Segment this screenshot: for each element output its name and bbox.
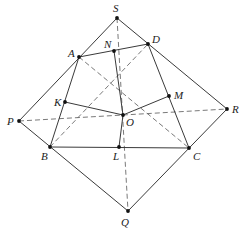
segment-lo bbox=[119, 115, 123, 147]
segment-sp bbox=[19, 18, 117, 121]
label-b: B bbox=[41, 150, 48, 162]
points bbox=[17, 16, 229, 213]
segment-sr bbox=[117, 18, 227, 109]
segment-ko bbox=[65, 102, 123, 115]
point-m bbox=[167, 94, 171, 98]
point-r bbox=[225, 107, 229, 111]
label-s: S bbox=[113, 2, 119, 14]
point-c bbox=[187, 146, 191, 150]
label-m: M bbox=[173, 89, 184, 101]
label-n: N bbox=[103, 38, 112, 50]
point-d bbox=[146, 42, 150, 46]
point-p bbox=[17, 119, 21, 123]
segment-bd bbox=[50, 44, 148, 147]
label-p: P bbox=[6, 115, 14, 127]
label-c: C bbox=[193, 150, 201, 162]
point-a bbox=[77, 55, 81, 59]
label-o: O bbox=[126, 116, 134, 128]
label-d: D bbox=[151, 33, 160, 45]
segment-ac bbox=[79, 57, 189, 148]
point-n bbox=[112, 49, 116, 53]
label-l: L bbox=[112, 150, 119, 162]
label-k: K bbox=[53, 96, 62, 108]
point-k bbox=[63, 100, 67, 104]
segment-rq bbox=[128, 109, 227, 211]
point-s bbox=[115, 16, 119, 20]
point-l bbox=[117, 145, 121, 149]
segment-no bbox=[114, 51, 123, 115]
point-o bbox=[121, 113, 125, 117]
point-q bbox=[126, 209, 130, 213]
label-q: Q bbox=[121, 216, 129, 228]
point-b bbox=[48, 145, 52, 149]
segment-pq bbox=[19, 121, 128, 211]
label-a: A bbox=[67, 47, 75, 59]
geometry-diagram: SDNAKMOPRBLCQ bbox=[0, 0, 244, 242]
label-r: R bbox=[231, 103, 239, 115]
